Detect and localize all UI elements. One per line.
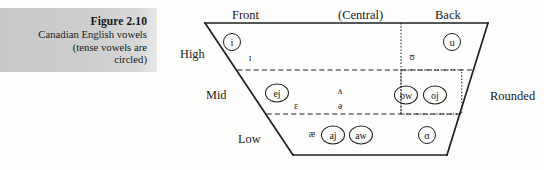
row-label-low: Low [238, 133, 261, 146]
column-header-0: Front [232, 9, 259, 22]
vowel-oj: oj [423, 86, 447, 105]
column-header-2: Back [435, 9, 461, 22]
vowel-script-a: ɑ [418, 126, 436, 144]
vowel-ow: ow [394, 86, 418, 105]
vowel-trapezoid-diagram [170, 0, 544, 170]
vowel-aw: aw [349, 126, 373, 145]
vowel-ej: ej [265, 84, 289, 103]
vowel-small-cap-i: ɪ [249, 53, 252, 64]
row-label-mid: Mid [206, 89, 227, 102]
vowel-schwa: ə [338, 101, 342, 112]
vowel-chart: Front(Central)Back HighMidLow Rounded iɪ… [170, 0, 544, 170]
row-label-high: High [180, 48, 205, 61]
vowel-u: u [443, 33, 461, 51]
column-header-1: (Central) [338, 9, 383, 22]
vowel-upsilon: ʊ [409, 52, 414, 63]
vowel-epsilon: ɛ [294, 101, 298, 112]
vowel-ash: æ [309, 129, 315, 140]
side-label-rounded: Rounded [490, 90, 535, 103]
figure-caption-line-2: (tense vowels are [6, 41, 147, 54]
figure-caption-line-1: Canadian English vowels [6, 28, 147, 41]
vowel-caret: ʌ [338, 86, 343, 97]
vowel-i: i [223, 33, 241, 51]
figure-caption-line-3: circled) [6, 53, 147, 66]
figure-caption-title: Figure 2.10 [6, 15, 147, 28]
figure-root: Figure 2.10 Canadian English vowels (ten… [0, 0, 544, 170]
figure-caption-box: Figure 2.10 Canadian English vowels (ten… [0, 8, 157, 72]
vowel-aj: aj [321, 126, 345, 145]
